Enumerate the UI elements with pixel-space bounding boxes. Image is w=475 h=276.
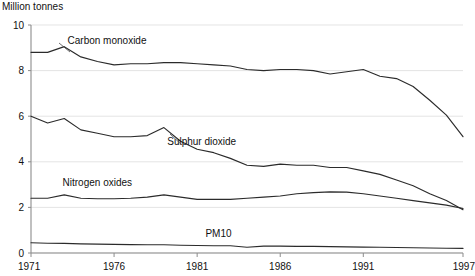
series-line-carbon-monoxide (31, 47, 463, 137)
series-line-sulphur-dioxide (31, 116, 463, 209)
x-tick-label-1981: 1981 (186, 261, 209, 272)
y-tick-labels: 0246810 (13, 20, 25, 259)
y-tick-label-6: 6 (18, 111, 24, 122)
y-axis (28, 25, 31, 253)
series-line-pm10 (31, 243, 463, 249)
x-tick-label-1986: 1986 (269, 261, 292, 272)
data-series-lines (31, 47, 463, 249)
x-tick-labels: 197119761981198619911997 (18, 261, 475, 272)
y-tick-label-8: 8 (18, 65, 24, 76)
x-tick-label-1991: 1991 (352, 261, 375, 272)
chart-plot-area: 0246810 197119761981198619911997 Carbon … (0, 0, 475, 276)
x-tick-label-1976: 1976 (103, 261, 126, 272)
x-axis (31, 253, 463, 257)
gridlines (31, 25, 463, 253)
x-tick-label-1997: 1997 (453, 261, 475, 272)
y-tick-label-4: 4 (18, 156, 24, 167)
series-label-pm10: PM10 (205, 228, 232, 239)
y-tick-label-0: 0 (18, 248, 24, 259)
series-line-nitrogen-oxides (31, 192, 463, 209)
series-label-nitrogen-oxides: Nitrogen oxides (63, 177, 132, 188)
series-annotations: Carbon monoxideSulphur dioxideNitrogen o… (59, 35, 237, 238)
y-tick-label-2: 2 (18, 202, 24, 213)
emissions-line-chart: Million tonnes 0246810 19711976198119861… (0, 0, 475, 276)
series-label-carbon-monoxide: Carbon monoxide (68, 35, 147, 46)
y-tick-label-10: 10 (13, 20, 25, 31)
x-tick-label-1971: 1971 (18, 261, 41, 272)
